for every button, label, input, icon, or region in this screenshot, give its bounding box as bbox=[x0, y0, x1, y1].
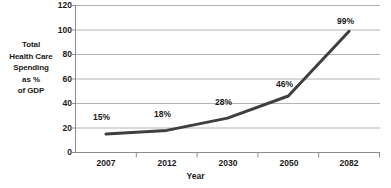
data-series-line bbox=[106, 31, 349, 134]
data-label-2030: 28% bbox=[215, 98, 232, 107]
x-tick-label-2082: 2082 bbox=[324, 158, 374, 168]
chart-container: Total Health Care Spending as % of GDP 1… bbox=[0, 0, 391, 188]
gridlines bbox=[76, 6, 380, 129]
data-label-2012: 18% bbox=[154, 110, 171, 119]
data-label-2082: 99% bbox=[337, 17, 354, 26]
x-tick-label-2030: 2030 bbox=[203, 158, 253, 168]
x-axis-title: Year bbox=[0, 171, 391, 181]
y-axis bbox=[71, 5, 76, 153]
data-label-2050: 46% bbox=[276, 80, 293, 89]
x-tick-label-2012: 2012 bbox=[142, 158, 192, 168]
x-axis bbox=[76, 153, 381, 158]
x-tick-label-2007: 2007 bbox=[81, 158, 131, 168]
x-tick-label-2050: 2050 bbox=[264, 158, 314, 168]
data-label-2007: 15% bbox=[93, 113, 110, 122]
